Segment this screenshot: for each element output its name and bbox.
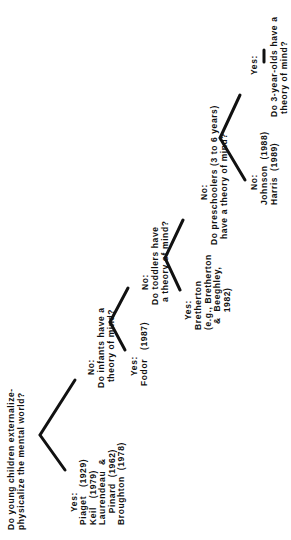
preschoolers-no-refs: Johnson (1988) Harris (1989)	[260, 131, 279, 205]
root-yes-refs: Piaget (1929) Keil (1979) Laurendeau & P…	[79, 442, 127, 525]
toddlers-yes-refs: Bretherton (e.g., Bretherton & Beeghley,…	[194, 254, 232, 330]
toddlers-question: Do toddlers have a theory of mind?	[151, 221, 170, 305]
root-question: Do young children externalize- physicali…	[7, 388, 26, 530]
preschoolers-yes-label: Yes:	[250, 55, 260, 75]
infants-question: Do infants have a theory of mind?	[97, 307, 116, 388]
tree-branches	[0, 0, 291, 540]
preschoolers-question: Do preschoolers (3 to 6 years) have a th…	[210, 105, 229, 245]
three-year-olds-question: Do 3-year-olds have a theory of mind?	[270, 17, 289, 117]
branch-root	[40, 380, 75, 470]
infants-yes-refs: Fodor (1987)	[140, 322, 150, 386]
